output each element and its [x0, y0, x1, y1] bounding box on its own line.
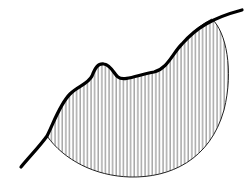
hatched-region	[0, 0, 252, 190]
hatched-curve-diagram	[0, 0, 252, 190]
